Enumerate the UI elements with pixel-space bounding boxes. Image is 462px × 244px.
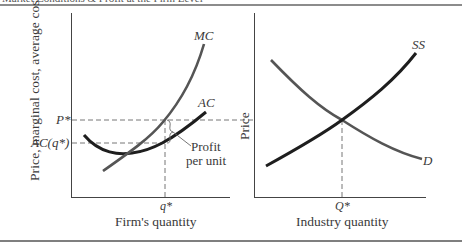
right-panel-graph [254,13,426,198]
supply-curve-label: SS [412,38,425,51]
left-x-axis-label: Firm's quantity [115,215,197,229]
mc-curve-label: MC [194,29,214,42]
demand-curve [271,60,422,159]
profit-leader-line [173,132,191,146]
firm-quantity-tick-label: q* [160,200,172,212]
industry-quantity-tick-label: Q* [335,200,350,212]
average-cost-curve [84,112,206,154]
profit-label-line1: Profit [191,140,221,153]
right-y-axis-label: Price [238,112,252,140]
marginal-cost-curve [103,44,204,171]
ac-curve-label: AC [198,96,215,109]
avg-cost-tick-label: AC(q*) [31,136,69,149]
left-y-axis-label: Price, marginal cost, average cost [28,0,42,181]
right-x-axis-label: Industry quantity [296,215,389,229]
figure: Market Conditions & Profit at the Firm L… [0,0,462,244]
demand-curve-label: D [423,154,432,167]
left-panel-graph [71,13,255,198]
price-tick-label: P* [56,113,70,126]
profit-label-line2: per unit [186,154,226,167]
